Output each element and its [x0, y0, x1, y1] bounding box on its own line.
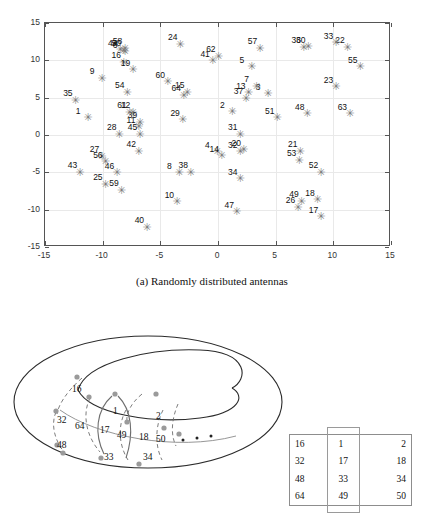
point-label: 53: [287, 148, 296, 158]
point-label: 34: [228, 167, 237, 177]
y-tick: [45, 210, 49, 211]
gridline-horizontal: [45, 135, 389, 136]
point-label: 63: [338, 102, 347, 112]
point-label: 10: [165, 190, 174, 200]
point-label: 9: [90, 66, 95, 76]
table-cell: 2: [370, 435, 411, 453]
y-tick: [45, 23, 49, 24]
x-tick-top: [160, 23, 161, 27]
torus-node-label: 2: [156, 411, 161, 421]
x-tick-top: [218, 23, 219, 27]
point-label: 31: [228, 122, 237, 132]
table-cell: 16: [290, 435, 334, 453]
point-label: 54: [115, 80, 124, 90]
x-tick-label: -10: [96, 250, 108, 260]
x-tick-label: -5: [156, 250, 164, 260]
gridline-horizontal: [45, 98, 389, 99]
torus-node-label: 17: [100, 425, 110, 435]
point-label: 59: [109, 178, 118, 188]
torus-node-label: 33: [104, 452, 114, 462]
asterisk-marker-icon: ✳: [252, 82, 261, 91]
point-label: 36: [292, 35, 301, 45]
point-label: 60: [155, 70, 164, 80]
x-tick: [45, 241, 46, 245]
point-label: 35: [63, 88, 72, 98]
table-cell: 49: [334, 488, 370, 506]
point-label: 2: [220, 100, 225, 110]
point-label: 25: [93, 172, 102, 182]
y-tick-label: -15: [14, 241, 40, 251]
asterisk-marker-icon: ✳: [97, 74, 106, 83]
y-tick-right: [385, 23, 389, 24]
y-tick: [45, 98, 49, 99]
y-tick-label: 10: [14, 54, 40, 64]
figure-a-scatter-plot: ✳1✳2✳3✳4✳5✳6✳7✳8✳9✳10✳11✳12✳13✳14✳15✳16✳…: [0, 0, 424, 300]
x-tick: [218, 241, 219, 245]
table-cell: 64: [290, 488, 334, 506]
point-label: 17: [309, 205, 318, 215]
y-tick: [45, 247, 49, 248]
ellipsis-dot: [210, 435, 213, 438]
x-tick-top: [276, 23, 277, 27]
y-tick: [45, 60, 49, 61]
antenna-index-table: 1612321718483334644950: [289, 434, 412, 506]
point-label: 61: [117, 100, 126, 110]
point-label: 62: [206, 44, 215, 54]
x-tick-label: 10: [328, 250, 337, 260]
y-tick-label: 5: [14, 92, 40, 102]
table-cell: 32: [290, 453, 334, 471]
asterisk-marker-icon: ✳: [83, 113, 92, 122]
y-tick-right: [385, 247, 389, 248]
table-cell: 18: [370, 453, 411, 471]
y-tick-label: -5: [14, 166, 40, 176]
y-tick-right: [385, 60, 389, 61]
x-tick: [160, 241, 161, 245]
point-label: 45: [128, 122, 137, 132]
x-tick: [391, 241, 392, 245]
point-label: 14: [210, 144, 219, 154]
table-row: 1612: [290, 435, 411, 453]
gridline-vertical: [276, 23, 277, 245]
point-label: 52: [309, 160, 318, 170]
point-label: 42: [127, 139, 136, 149]
y-tick: [45, 172, 49, 173]
point-label: 19: [121, 58, 130, 68]
point-label: 24: [168, 32, 177, 42]
ellipsis-dot: [196, 437, 199, 440]
point-label: 40: [135, 215, 144, 225]
table-cell: 48: [290, 470, 334, 488]
gridline-vertical: [160, 23, 161, 245]
torus-node-label: 16: [72, 384, 82, 394]
y-tick: [45, 135, 49, 136]
asterisk-marker-icon: ✳: [227, 107, 236, 116]
index-table: 1612321718483334644950: [290, 435, 411, 505]
table-row: 321718: [290, 453, 411, 471]
point-label: 1: [76, 106, 81, 116]
point-label: 29: [170, 108, 179, 118]
point-label: 23: [324, 75, 333, 85]
y-tick-right: [385, 98, 389, 99]
table-cell: 1: [334, 435, 370, 453]
table-cell: 34: [370, 470, 411, 488]
point-label: 56: [93, 150, 102, 160]
x-tick-label: 0: [215, 250, 220, 260]
point-label: 48: [295, 102, 304, 112]
point-label: 58: [113, 36, 122, 46]
point-label: 5: [240, 55, 245, 65]
y-tick-label: -10: [14, 204, 40, 214]
point-label: 18: [305, 188, 314, 198]
x-tick: [103, 241, 104, 245]
table-row: 483334: [290, 470, 411, 488]
x-tick-label: 5: [272, 250, 277, 260]
torus-node-label: 18: [139, 432, 149, 442]
torus-node-label: 1: [113, 406, 118, 416]
x-tick-top: [103, 23, 104, 27]
point-label: 8: [167, 161, 172, 171]
table-cell: 50: [370, 488, 411, 506]
torus-node-label: 34: [143, 452, 153, 462]
ellipsis-dot: [182, 439, 185, 442]
point-label: 57: [248, 36, 257, 46]
point-label: 32: [228, 140, 237, 150]
y-tick-right: [385, 172, 389, 173]
table-cell: 33: [334, 470, 370, 488]
